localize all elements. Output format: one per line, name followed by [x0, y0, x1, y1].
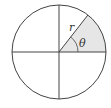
radius-label: r [69, 21, 75, 34]
angle-label: θ [79, 37, 86, 50]
circle-sector-diagram: r θ [0, 0, 111, 108]
